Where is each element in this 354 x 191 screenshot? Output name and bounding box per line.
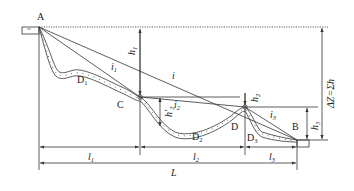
label-i1: i1 bbox=[111, 61, 117, 73]
label-a: A bbox=[37, 11, 45, 22]
slope-line-i2 bbox=[140, 97, 245, 107]
label-d3: D3 bbox=[247, 132, 257, 144]
label-b: B bbox=[292, 121, 299, 132]
label-h2: h2 bbox=[249, 93, 261, 102]
label-d1: D1 bbox=[77, 74, 87, 86]
label-h1: h1 bbox=[126, 47, 138, 55]
label-d: D bbox=[231, 121, 238, 132]
label-total-drop: ΔZ=Σh bbox=[325, 79, 336, 109]
start-block bbox=[22, 27, 39, 34]
channel-profile-diagram: A C D B D1 D2 D3 i i1 i2 i3 h1 h2 h'2 h3… bbox=[0, 0, 354, 191]
label-c: C bbox=[117, 99, 124, 110]
label-l2: l2 bbox=[193, 151, 200, 163]
label-i: i bbox=[172, 70, 175, 81]
label-l3: l3 bbox=[269, 151, 276, 163]
label-h2-prime: h'2 bbox=[163, 106, 175, 117]
slope-line-i1 bbox=[39, 27, 140, 97]
channel-bed-dots bbox=[41, 34, 296, 141]
end-block bbox=[297, 140, 309, 147]
label-l1: l1 bbox=[88, 151, 94, 163]
label-i3: i3 bbox=[270, 109, 277, 121]
label-L: L bbox=[170, 167, 177, 178]
label-h3: h3 bbox=[309, 121, 321, 130]
